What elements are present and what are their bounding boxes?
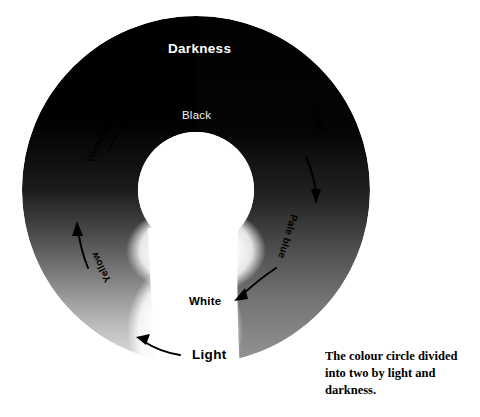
colour-circle-figure: Darkness Black White Light Violet Pale b…	[0, 0, 480, 417]
figure-caption: The colour circle divided into two by li…	[325, 348, 477, 399]
